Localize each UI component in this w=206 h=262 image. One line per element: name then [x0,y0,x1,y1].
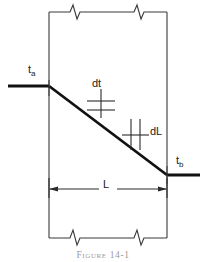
label-delta-t: dt [92,78,101,89]
length-dim-arrow-left [49,186,58,191]
bottom-edge-break-line [49,230,167,245]
label-delta-L: dL [150,126,162,137]
label-temperature-b-subscript: b [179,160,183,169]
label-temperature-a-subscript: a [31,69,35,78]
length-dim-arrow-right [158,186,167,191]
label-length: L [103,179,109,190]
top-edge-break-line [49,5,167,19]
thermal-gradient-diagram [0,0,206,262]
figure-container: ta tb dt dL L Figure 14-1 [0,0,206,262]
temperature-profile-line [8,86,200,175]
dt-marker [87,89,115,118]
label-temperature-a: ta [28,64,36,75]
label-temperature-b: tb [176,155,184,166]
figure-caption: Figure 14-1 [0,250,206,260]
